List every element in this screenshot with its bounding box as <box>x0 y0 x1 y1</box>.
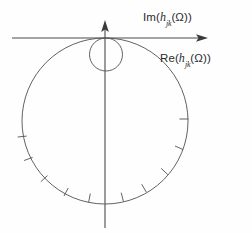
frequency-tick <box>121 193 123 202</box>
real-axis-label: Re(hjk(Ω)) <box>160 52 211 67</box>
im-subscript: jk <box>166 19 171 28</box>
imaginary-axis-label: Im(hjk(Ω)) <box>143 11 192 26</box>
frequency-tick <box>89 194 91 203</box>
im-prefix: Im( <box>143 11 160 23</box>
re-omega: Ω <box>194 52 203 64</box>
frequency-tick <box>161 168 168 174</box>
frequency-tick <box>18 136 27 137</box>
im-suffix: ) <box>188 11 192 23</box>
imaginary-axis-group <box>101 20 109 228</box>
re-suffix: ) <box>207 52 211 64</box>
frequency-tick <box>142 184 147 192</box>
inner-locus-circle <box>90 38 123 71</box>
im-omega: Ω <box>175 11 184 23</box>
frequency-tick <box>175 146 183 150</box>
re-prefix: Re( <box>160 52 179 64</box>
nyquist-figure: Im(hjk(Ω)) Re(hjk(Ω)) <box>0 0 252 233</box>
re-subscript: jk <box>185 60 190 69</box>
frequency-tick-group <box>18 119 189 202</box>
nyquist-plot-canvas <box>0 0 252 233</box>
frequency-tick <box>41 176 48 182</box>
